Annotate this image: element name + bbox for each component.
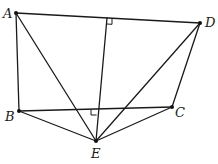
segment-AD	[16, 13, 200, 23]
point-C	[170, 105, 174, 109]
segment-DE	[96, 23, 200, 141]
point-A	[14, 11, 18, 15]
geometry-diagram: A B C D E	[0, 0, 218, 164]
labels: A B C D E	[2, 6, 216, 161]
label-E: E	[90, 146, 101, 161]
segment-BC	[19, 107, 172, 111]
label-D: D	[204, 15, 216, 30]
vertices	[14, 11, 202, 143]
right-angle-mark-top	[107, 18, 112, 24]
segment-BE	[19, 111, 96, 141]
point-E	[94, 139, 98, 143]
point-D	[198, 21, 202, 25]
label-C: C	[175, 105, 185, 120]
segment-AE	[16, 13, 96, 141]
right-angle-mark-bottom	[91, 109, 97, 115]
label-A: A	[2, 6, 12, 21]
segment-AB	[16, 13, 19, 111]
segment-CD	[172, 23, 200, 107]
segment-CE	[96, 107, 172, 141]
label-B: B	[4, 109, 15, 124]
point-B	[17, 109, 21, 113]
perpendicular-E-to-AD	[96, 18, 107, 141]
segments	[16, 13, 200, 141]
right-angle-marks	[91, 18, 112, 115]
